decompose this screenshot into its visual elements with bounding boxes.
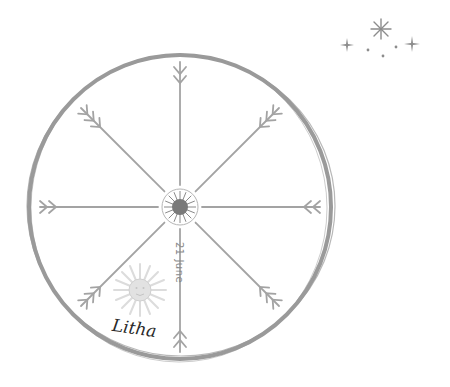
sparkle-dot-icon — [395, 46, 398, 49]
festival-date-label: 21 June — [165, 242, 185, 292]
spoke-arrow-icon — [174, 62, 186, 185]
sparkle-star-icon — [371, 19, 391, 39]
spoke-arrow-icon — [77, 104, 169, 196]
spoke-arrow-icon — [40, 201, 158, 213]
sparkle-dot-icon — [367, 49, 370, 52]
litha-sun-icon — [114, 264, 166, 316]
hub-sun-icon — [162, 189, 198, 225]
sparkle-star-icon — [340, 38, 354, 52]
sparkle-star-icon — [404, 36, 420, 52]
spoke-arrow-icon — [191, 218, 283, 310]
spoke-arrow-icon — [202, 201, 320, 213]
spoke-arrow-icon — [191, 104, 283, 196]
sparkles-decoration — [340, 19, 420, 57]
sparkle-dot-icon — [382, 55, 385, 58]
wheel-of-year-graphic — [0, 0, 450, 387]
